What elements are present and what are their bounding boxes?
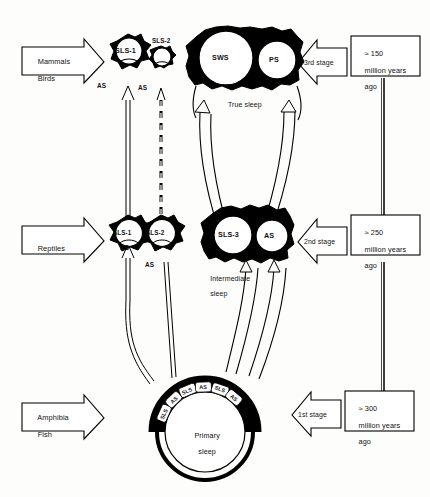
stage-arrow-2nd — [298, 219, 347, 263]
node-primary-sleep — [156, 382, 253, 480]
sleep-evolution-diagram — [0, 0, 430, 497]
node-mid-sls2 — [142, 215, 185, 251]
node-top-sls1 — [110, 34, 151, 69]
connector-primary-to-sls2 — [164, 262, 176, 378]
node-true-sleep-blob — [186, 26, 304, 90]
node-intermediate-blob — [201, 205, 294, 263]
taxa-arrow-mammals-birds — [22, 39, 104, 83]
era-box-300 — [345, 391, 414, 431]
taxa-arrow-reptiles — [22, 218, 104, 262]
true-sleep-body-outline — [193, 86, 301, 120]
node-mid-sls1 — [109, 215, 152, 251]
figure-canvas: Mammals Birds Reptiles Amphibia Fish 3rd… — [0, 0, 430, 497]
era-box-250 — [351, 215, 420, 255]
taxa-arrow-amphibia-fish — [22, 395, 104, 439]
stage-arrow-3rd — [298, 40, 347, 84]
era-box-150 — [351, 36, 420, 76]
band-primary-to-intermediate — [226, 260, 286, 379]
node-top-sls2 — [149, 46, 176, 68]
stage-arrow-1st — [292, 392, 341, 436]
